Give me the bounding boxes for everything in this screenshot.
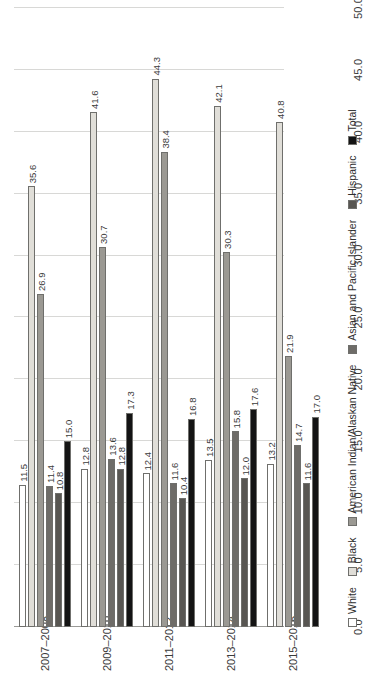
bar[interactable]	[179, 498, 186, 627]
bar-group: 2007–200811.535.626.911.410.815.0	[14, 8, 76, 627]
bar-group: 2015–201613.240.821.914.711.617.0	[262, 8, 324, 627]
bar[interactable]	[81, 469, 88, 627]
bar-value-label: 15.8	[230, 410, 241, 429]
bar[interactable]	[19, 485, 26, 627]
legend-swatch-icon	[348, 618, 357, 627]
legend-swatch-icon	[348, 136, 357, 145]
bar-value-label: 21.9	[283, 334, 294, 353]
bar-value-label: 12.4	[141, 452, 152, 471]
legend-swatch-icon	[348, 567, 357, 576]
bar-value-label: 16.8	[186, 398, 197, 417]
bar-row: 12.0	[241, 8, 248, 627]
bar-row: 41.6	[90, 8, 97, 627]
bar-value-label: 15.0	[62, 420, 73, 439]
bar-value-label: 30.7	[97, 225, 108, 244]
bar-row: 30.7	[99, 8, 106, 627]
bar-row: 13.5	[205, 8, 212, 627]
bar-row: 10.8	[55, 8, 62, 627]
bar[interactable]	[285, 356, 292, 627]
bar-row: 10.4	[179, 8, 186, 627]
legend-item[interactable]: American Indian/Alaskan Native	[346, 365, 358, 527]
legend-swatch-icon	[348, 517, 357, 526]
bar-row: 15.0	[64, 8, 71, 627]
legend-label: Asian and Pacific Islander	[346, 220, 358, 341]
legend-item[interactable]: Asian and Pacific Islander	[346, 220, 358, 354]
bar-value-label: 17.0	[310, 395, 321, 414]
bar-value-label: 13.5	[203, 438, 214, 457]
bar-row: 11.6	[170, 8, 177, 627]
bar-groups: 2007–200811.535.626.911.410.815.02009–20…	[14, 8, 284, 627]
rotated-chart-stage: 2007–200811.535.626.911.410.815.02009–20…	[0, 0, 372, 673]
bar[interactable]	[55, 493, 62, 627]
bar-row: 40.8	[276, 8, 283, 627]
bar[interactable]	[294, 445, 301, 627]
bar[interactable]	[117, 469, 124, 627]
category-label: 2009–2010	[101, 631, 113, 671]
bar-row: 17.3	[126, 8, 133, 627]
bar[interactable]	[161, 152, 168, 627]
bar[interactable]	[276, 122, 283, 627]
bar-row: 14.7	[294, 8, 301, 627]
bar[interactable]	[37, 294, 44, 627]
bar[interactable]	[267, 464, 274, 627]
bar[interactable]	[170, 483, 177, 627]
bar-value-label: 12.8	[79, 447, 90, 466]
bar-value-label: 38.4	[159, 130, 170, 149]
bar-row: 16.8	[188, 8, 195, 627]
bar-value-label: 41.6	[88, 91, 99, 110]
bar[interactable]	[28, 186, 35, 627]
bar[interactable]	[126, 413, 133, 627]
legend-item[interactable]: Black	[346, 537, 358, 576]
bar-row: 11.5	[19, 8, 26, 627]
bar[interactable]	[303, 483, 310, 627]
bar-row: 30.3	[223, 8, 230, 627]
bar-row: 44.3	[152, 8, 159, 627]
bar[interactable]	[188, 419, 195, 627]
bar-value-label: 40.8	[274, 100, 285, 119]
bar-value-label: 10.8	[53, 472, 64, 491]
bar-row: 35.6	[28, 8, 35, 627]
bar-group: 2013–201413.542.130.315.812.017.6	[200, 8, 262, 627]
bar-value-label: 30.3	[221, 230, 232, 249]
legend-label: American Indian/Alaskan Native	[346, 365, 358, 514]
bar-row: 11.6	[303, 8, 310, 627]
category-label: 2013–2014	[225, 631, 237, 671]
bar-group: 2011–201212.444.338.411.610.416.8	[138, 8, 200, 627]
legend-swatch-icon	[348, 200, 357, 209]
bar-row: 11.4	[46, 8, 53, 627]
bar[interactable]	[250, 409, 257, 627]
bar-value-label: 35.6	[26, 165, 37, 184]
bar[interactable]	[223, 252, 230, 627]
bar[interactable]	[214, 106, 221, 627]
bar-value-label: 13.2	[265, 442, 276, 461]
bar-row: 13.2	[267, 8, 274, 627]
bar-row: 21.9	[285, 8, 292, 627]
legend-label: Total	[346, 109, 358, 131]
bar-value-label: 42.1	[212, 84, 223, 103]
chart-legend: WhiteBlackAmerican Indian/Alaskan Native…	[332, 8, 372, 627]
legend-label: Black	[346, 537, 358, 563]
legend-item[interactable]: White	[346, 587, 358, 627]
bar-value-label: 12.0	[239, 457, 250, 476]
bar-row: 17.0	[312, 8, 319, 627]
bar[interactable]	[205, 460, 212, 627]
bar[interactable]	[46, 486, 53, 627]
bar[interactable]	[312, 417, 319, 627]
bar-row: 13.6	[108, 8, 115, 627]
bar[interactable]	[232, 431, 239, 627]
legend-item[interactable]: Hispanic	[346, 156, 358, 209]
bar[interactable]	[99, 247, 106, 627]
bar[interactable]	[90, 112, 97, 627]
bar[interactable]	[64, 441, 71, 627]
bar[interactable]	[241, 478, 248, 627]
bar-row: 17.6	[250, 8, 257, 627]
bar-row: 38.4	[161, 8, 168, 627]
category-label: 2015–2016	[287, 631, 299, 671]
bar[interactable]	[152, 79, 159, 627]
bar-row: 15.8	[232, 8, 239, 627]
bar-value-label: 14.7	[292, 424, 303, 443]
bar-value-label: 12.8	[115, 447, 126, 466]
legend-item[interactable]: Total	[346, 109, 358, 144]
bar[interactable]	[108, 459, 115, 627]
bar[interactable]	[143, 474, 150, 628]
